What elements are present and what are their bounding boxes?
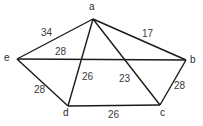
edge-e-b	[17, 59, 186, 60]
edge-weight-e-d: 28	[34, 85, 45, 95]
edge-e-d	[17, 59, 68, 106]
vertex-label-e: e	[4, 53, 10, 63]
edge-a-d	[68, 19, 93, 106]
edge-weight-a-c: 23	[119, 74, 130, 84]
vertex-label-c: c	[160, 108, 165, 118]
vertex-label-b: b	[190, 55, 196, 65]
edge-weight-a-b: 17	[142, 29, 153, 39]
vertex-label-d: d	[63, 108, 69, 118]
edge-a-b	[93, 19, 186, 60]
edge-weight-e-a: 34	[41, 28, 52, 38]
edge-weight-e-b: 28	[55, 47, 66, 57]
weighted-graph-figure: a b c d e 34 17 28 28 26 23 28 26	[0, 0, 203, 126]
edge-d-c	[68, 105, 160, 106]
graph-canvas	[0, 0, 203, 126]
edge-weight-b-c: 28	[174, 81, 185, 91]
edge-weight-a-d: 26	[82, 72, 93, 82]
vertex-label-a: a	[89, 2, 95, 12]
edge-weight-d-c: 26	[108, 110, 119, 120]
